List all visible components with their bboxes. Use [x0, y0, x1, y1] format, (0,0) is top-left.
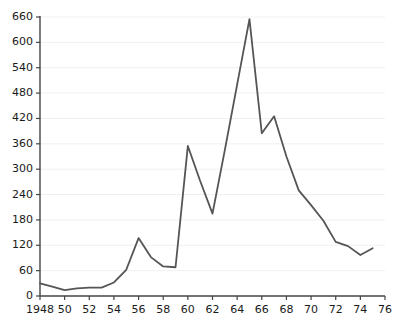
line-chart: 060120180240300360420480540600660 194850…	[0, 0, 395, 320]
y-axis-tick-label: 240	[12, 189, 33, 200]
data-line	[40, 19, 373, 290]
y-axis-tick-label: 600	[12, 36, 33, 47]
chart-plot-area	[0, 0, 395, 320]
gridlines	[40, 17, 385, 271]
x-axis-tick-label: 76	[360, 304, 395, 315]
y-axis-tick-label: 60	[19, 265, 33, 276]
y-axis-tick-label: 360	[12, 138, 33, 149]
y-axis-tick-label: 0	[26, 290, 33, 301]
data-line-series-1	[40, 19, 373, 290]
y-axis-tick-label: 540	[12, 62, 33, 73]
axis-ticks	[36, 17, 385, 300]
y-axis-tick-label: 480	[12, 87, 33, 98]
y-axis-tick-label: 180	[12, 214, 33, 225]
y-axis-tick-label: 420	[12, 112, 33, 123]
y-axis-tick-label: 300	[12, 163, 33, 174]
axis-lines	[40, 16, 385, 296]
y-axis-tick-label: 660	[12, 11, 33, 22]
y-axis-tick-label: 120	[12, 239, 33, 250]
